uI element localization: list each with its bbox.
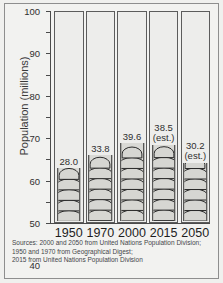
bar-1950 (57, 168, 81, 221)
y-tick: 30 (46, 159, 51, 160)
crowd-texture (121, 143, 143, 221)
y-tick-label: 60 (29, 175, 40, 186)
x-axis-label-1970: 1970 (86, 226, 114, 240)
x-axis-label-2015: 2015 (150, 226, 178, 240)
population-bar-chart-figure: Population (millions) 010203040506070809… (0, 0, 223, 283)
bar-value-sublabel: (est.) (184, 151, 206, 161)
y-tick-label: 100 (24, 6, 40, 17)
y-tick: 50 (46, 117, 51, 118)
bar-2050 (184, 163, 208, 221)
bar-column-2015 (149, 11, 179, 223)
plot-area: 0102030405060708090100 28.033.839.638.5(… (50, 11, 210, 223)
y-tick-label: 50 (29, 218, 40, 229)
crowd-texture (153, 145, 175, 221)
bar-2015 (152, 145, 176, 221)
y-tick-label: 90 (29, 48, 40, 59)
bar-value-sublabel: (est.) (153, 133, 175, 143)
y-tick: 70 (46, 75, 51, 76)
sources-note: Sources: 2000 and 2050 from United Natio… (12, 239, 212, 265)
crowd-texture (90, 155, 112, 221)
y-tick: 60 (46, 96, 51, 97)
bar-value-1950: 28.0 (60, 157, 79, 167)
crowd-texture (185, 163, 207, 221)
y-tick: 90 (46, 32, 51, 33)
y-tick: 10 (46, 202, 51, 203)
x-axis-label-2050: 2050 (181, 226, 209, 240)
bar-column-2000 (117, 11, 147, 223)
y-tick: 20 (46, 181, 51, 182)
sources-line-3: 2015 from United Nations Population Divi… (12, 256, 212, 265)
bar-value-2000: 39.6 (123, 132, 142, 142)
bar-value-label: 28.0 (60, 157, 79, 167)
bar-value-1970: 33.8 (91, 144, 110, 154)
sources-line-1: Sources: 2000 and 2050 from United Natio… (12, 239, 212, 248)
x-axis-line (50, 223, 210, 224)
bar-1970 (89, 155, 113, 221)
x-axis-label-1950: 1950 (55, 226, 83, 240)
x-axis-label-2000: 2000 (118, 226, 146, 240)
y-tick: 100 (46, 11, 51, 12)
y-tick: 80 (46, 53, 51, 54)
bar-column-1970 (86, 11, 116, 223)
bar-value-label: 39.6 (123, 132, 142, 142)
bar-column-2050 (181, 11, 211, 223)
bar-value-2050: 30.2(est.) (184, 141, 206, 161)
sources-line-2: 1950 and 1970 from Geographical Digest; (12, 248, 212, 257)
bar-value-label: 33.8 (91, 144, 110, 154)
crowd-texture (58, 168, 80, 221)
bar-value-2015: 38.5(est.) (153, 123, 175, 143)
y-tick: 40 (46, 138, 51, 139)
bar-column-1950 (54, 11, 84, 223)
y-tick: 0 (46, 223, 51, 224)
y-tick-label: 70 (29, 133, 40, 144)
y-axis-title: Population (millions) (18, 26, 30, 186)
y-tick-label: 80 (29, 90, 40, 101)
bar-2000 (120, 143, 144, 221)
